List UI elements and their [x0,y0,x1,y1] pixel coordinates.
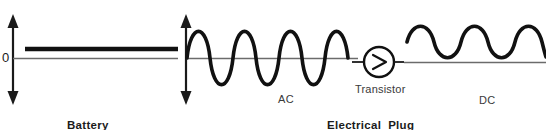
zero-axis-label: 0 [2,50,9,65]
battery-caption: Battery [67,119,109,130]
waveform-diagram: 0 AC Transistor DC Battery Electrical Pl… [0,0,546,130]
transistor-symbol[interactable] [352,47,404,77]
battery-panel [8,14,179,105]
battery-axis-arrow-down-icon [8,91,19,105]
electrical-plug-caption: Electrical Plug [327,119,414,130]
dc-waveform-label: DC [479,94,496,106]
dc-panel [404,26,546,62]
ac-axis-arrow-up-icon [181,14,192,28]
ac-panel [181,14,359,105]
ac-amplitude-axis [181,14,192,105]
ac-axis-arrow-down-icon [181,91,192,105]
diagram-canvas [0,0,546,130]
ac-waveform-label: AC [278,93,294,105]
dc-ripple-trace [407,26,546,58]
battery-axis-arrow-up-icon [8,14,19,28]
transistor-circle-icon [364,47,394,77]
transistor-label: Transistor [355,83,406,95]
